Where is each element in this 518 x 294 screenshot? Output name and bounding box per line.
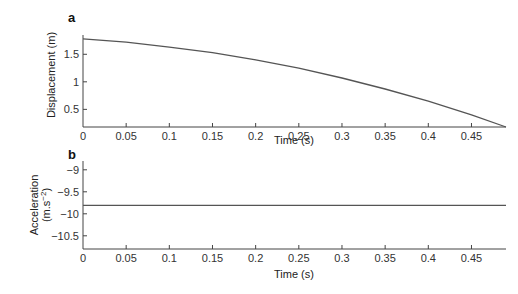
panel-a-label: a [68, 10, 76, 25]
x-tick-label: 0.1 [162, 130, 177, 142]
y-tick-label: −9 [66, 164, 79, 176]
svg-text:(m.s−2): (m.s−2) [39, 188, 52, 222]
x-tick-label: 0.4 [421, 252, 436, 264]
x-tick-label: 0.3 [334, 252, 349, 264]
y-tick-label: 1 [73, 76, 79, 88]
x-tick-label: 0.25 [288, 252, 309, 264]
acceleration-x-axis-label: Time (s) [274, 268, 314, 280]
x-tick-label: 0.2 [248, 130, 263, 142]
x-tick-label: 0.15 [202, 252, 223, 264]
y-tick-label: −10.5 [51, 230, 79, 242]
displacement-y-axis-label: Displacement (m) [45, 32, 57, 118]
displacement-x-axis-label: Time (s) [274, 134, 314, 146]
x-tick-label: 0.2 [248, 252, 263, 264]
y-tick-label: −10 [60, 208, 79, 220]
acceleration-chart: b 00.050.10.150.20.250.30.350.40.45−9−9.… [28, 147, 506, 280]
displacement-axes: 00.050.10.150.20.250.30.350.40.450.511.5 [64, 35, 506, 142]
acceleration-axes: 00.050.10.150.20.250.30.350.40.45−9−9.5−… [51, 161, 506, 264]
chart-figure: a 00.050.10.150.20.250.30.350.40.450.511… [0, 0, 518, 294]
x-tick-label: 0.05 [115, 252, 136, 264]
panel-b-label: b [68, 147, 76, 162]
y-tick-label: −9.5 [57, 186, 79, 198]
x-tick-label: 0 [80, 252, 86, 264]
x-tick-label: 0.3 [334, 130, 349, 142]
x-tick-label: 0.45 [461, 130, 482, 142]
x-tick-label: 0.35 [374, 130, 395, 142]
x-tick-label: 0.45 [461, 252, 482, 264]
x-tick-label: 0.35 [374, 252, 395, 264]
x-tick-label: 0 [80, 130, 86, 142]
y-tick-label: 0.5 [64, 103, 79, 115]
displacement-line [83, 39, 506, 127]
x-tick-label: 0.05 [115, 130, 136, 142]
svg-text:Acceleration: Acceleration [28, 175, 40, 236]
x-tick-label: 0.4 [421, 130, 436, 142]
x-tick-label: 0.15 [202, 130, 223, 142]
x-tick-label: 0.1 [162, 252, 177, 264]
y-tick-label: 1.5 [64, 48, 79, 60]
displacement-chart: a 00.050.10.150.20.250.30.350.40.450.511… [45, 10, 506, 146]
acceleration-y-axis-label: Acceleration (m.s−2) [28, 175, 52, 236]
